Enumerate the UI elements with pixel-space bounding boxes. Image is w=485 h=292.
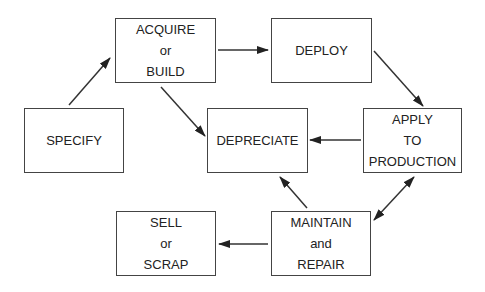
node-label-line: and	[310, 233, 332, 254]
node-label-line: REPAIR	[297, 254, 344, 275]
node-deploy: DEPLOY	[271, 18, 372, 83]
node-maintain: MAINTAINandREPAIR	[271, 211, 371, 276]
node-depreciate: DEPRECIATE	[207, 108, 308, 173]
arrow-maintain-to-depreciate	[280, 177, 307, 208]
node-label-line: ACQUIRE	[136, 19, 195, 40]
node-label-line: or	[160, 40, 172, 61]
node-acquire: ACQUIREorBUILD	[115, 18, 216, 83]
node-sell: SELLorSCRAP	[116, 211, 216, 276]
node-label-line: DEPRECIATE	[216, 130, 298, 151]
arrow-maintain-to-apply	[374, 177, 414, 220]
node-label-line: MAINTAIN	[290, 212, 351, 233]
node-specify: SPECIFY	[24, 108, 124, 173]
node-label-line: TO	[404, 130, 422, 151]
arrow-deploy-to-apply	[374, 51, 423, 106]
arrow-acquire-to-depreciate	[161, 87, 205, 136]
node-label-line: DEPLOY	[295, 40, 348, 61]
node-label-line: SCRAP	[144, 254, 189, 275]
node-label-line: PRODUCTION	[369, 151, 456, 172]
node-label-line: SELL	[150, 212, 182, 233]
node-label-line: or	[160, 233, 172, 254]
node-label-line: SPECIFY	[46, 130, 102, 151]
node-apply: APPLYTOPRODUCTION	[363, 108, 462, 173]
node-label-line: BUILD	[146, 61, 184, 82]
arrow-specify-to-acquire	[69, 58, 110, 105]
node-label-line: APPLY	[392, 109, 433, 130]
